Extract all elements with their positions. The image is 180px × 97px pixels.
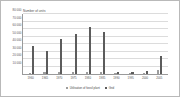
bar-group: [96, 14, 110, 74]
y-axis-tick-label: 60 000: [13, 23, 22, 27]
legend-label: Utilisation of fossil plant: [70, 86, 100, 90]
legend-label: Grid: [109, 86, 114, 90]
y-axis-title: Number of units: [23, 9, 46, 13]
x-axis-tick-label: 1985: [95, 76, 109, 83]
bar: [146, 71, 148, 74]
bar: [32, 46, 34, 74]
bar-series-group: [23, 14, 168, 74]
x-axis-tick-label: 2000: [138, 76, 152, 83]
legend-swatch: [66, 87, 69, 90]
bar-group: [25, 14, 39, 74]
x-axis-tick-label: 1975: [66, 76, 80, 83]
x-axis-tick-label: 1970: [52, 76, 66, 83]
x-axis-tick-label: 1995: [124, 76, 138, 83]
y-axis-tick-label: 80 000: [13, 8, 22, 12]
bar-group: [124, 14, 138, 74]
plot-area: 10 00020 00030 00040 00050 00060 00070 0…: [22, 14, 168, 75]
x-axis-tick-label: 1965: [38, 76, 52, 83]
bar: [160, 56, 162, 74]
y-axis-tick-label: 70 000: [13, 16, 22, 20]
x-axis-tick-label: 1960: [24, 76, 38, 83]
bar: [60, 39, 62, 74]
bar-group: [81, 14, 95, 74]
bar-group: [138, 14, 152, 74]
x-axis-tick-label: 1980: [81, 76, 95, 83]
y-axis-tick-label: 10 000: [13, 61, 22, 65]
chart-container: Number of units 10 00020 00030 00040 000…: [0, 0, 180, 97]
x-axis-tick-labels: 1960196519701975198019851990199520002005: [22, 76, 168, 83]
bar: [117, 72, 119, 74]
x-axis-tick-label: 1990: [109, 76, 123, 83]
bar: [103, 32, 105, 74]
legend-item[interactable]: Grid: [105, 86, 114, 90]
bar-group: [110, 14, 124, 74]
bar-group: [152, 14, 166, 74]
bar: [46, 51, 48, 74]
bar-group: [39, 14, 53, 74]
legend-swatch: [105, 87, 108, 90]
legend-item[interactable]: Utilisation of fossil plant: [66, 86, 100, 90]
y-axis-tick-label: 40 000: [13, 38, 22, 42]
bar: [131, 72, 133, 74]
bar: [89, 27, 91, 74]
bar: [75, 34, 77, 75]
chart-legend: Utilisation of fossil plantGrid: [1, 86, 179, 90]
bar-group: [53, 14, 67, 74]
x-axis-tick-label: 2005: [152, 76, 166, 83]
y-axis-tick-label: 30 000: [13, 46, 22, 50]
y-axis-tick-label: 20 000: [13, 53, 22, 57]
bar-group: [67, 14, 81, 74]
y-axis-tick-label: 50 000: [13, 31, 22, 35]
